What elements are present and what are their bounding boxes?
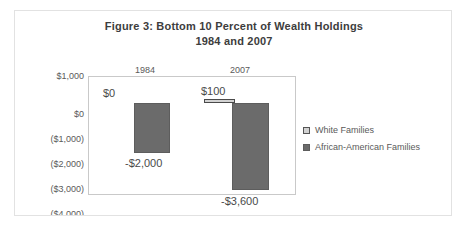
column-header-1984: 1984 [110, 65, 180, 75]
legend: White Families African-American Families [303, 125, 452, 159]
y-axis-tick-neg4000: ($4,000) [15, 209, 84, 216]
legend-swatch-icon-white [303, 127, 310, 134]
legend-item-african-american-families: African-American Families [303, 142, 452, 152]
bar-african-american-1984 [134, 103, 170, 153]
y-axis-tick-1000: $1,000 [15, 71, 84, 81]
y-axis-tick-neg1000: ($1,000) [15, 134, 84, 144]
chart-title-line-1: Figure 3: Bottom 10 Percent of Wealth Ho… [15, 19, 452, 34]
y-axis-tick-neg3000: ($3,000) [15, 184, 84, 194]
y-axis-tick-0: $0 [15, 109, 84, 119]
legend-label-african-american-families: African-American Families [315, 142, 420, 152]
chart-title: Figure 3: Bottom 10 Percent of Wealth Ho… [15, 19, 452, 49]
bar-white-2007 [204, 99, 235, 103]
y-axis-tick-neg2000: ($2,000) [15, 159, 84, 169]
data-label-white-2007: $100 [201, 85, 225, 97]
column-header-2007: 2007 [205, 65, 275, 75]
y-axis: $1,000 $0 ($1,000) ($2,000) ($3,000) ($4… [15, 68, 84, 203]
figure-container: Figure 3: Bottom 10 Percent of Wealth Ho… [14, 10, 452, 216]
legend-item-white-families: White Families [303, 125, 452, 135]
bar-african-american-2007 [232, 103, 269, 190]
chart-title-line-2: 1984 and 2007 [15, 34, 452, 49]
data-label-african-american-1984: -$2,000 [125, 157, 162, 169]
data-label-african-american-2007: -$3,600 [221, 195, 258, 207]
data-label-white-1984: $0 [103, 87, 115, 99]
legend-swatch-icon-african-american [303, 144, 310, 151]
legend-label-white-families: White Families [315, 125, 374, 135]
